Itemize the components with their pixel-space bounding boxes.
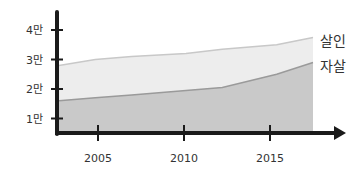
area-chart: 1만2만3만4만 200520102015 살인자살 — [0, 0, 364, 174]
x-tick-label: 2010 — [170, 152, 198, 165]
series-label-murder: 살인 — [320, 33, 346, 49]
x-tick-label: 2005 — [84, 152, 112, 165]
y-tick-label: 2만 — [26, 83, 43, 96]
y-tick-label: 3만 — [26, 54, 43, 67]
chart-areas — [59, 37, 313, 131]
y-tick-label: 1만 — [26, 113, 43, 126]
y-tick-label: 4만 — [26, 24, 43, 37]
x-axis-arrow-icon — [334, 126, 346, 140]
series-label-suicide: 자살 — [320, 58, 346, 74]
series-labels: 살인자살 — [320, 33, 346, 74]
x-tick-label: 2015 — [256, 152, 284, 165]
